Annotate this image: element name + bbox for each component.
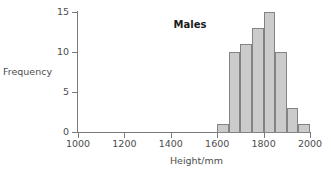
histogram-bar xyxy=(240,44,252,133)
histogram-bar xyxy=(229,52,241,133)
histogram-bar xyxy=(252,28,264,133)
histogram-bar xyxy=(298,124,310,133)
histogram-bar xyxy=(217,124,229,133)
histogram-bar xyxy=(275,52,287,133)
histogram-bar xyxy=(287,108,299,133)
histogram-bar xyxy=(264,12,276,133)
histogram-bars xyxy=(0,0,331,176)
plot-area: Males 051015 100012001400160018002000 Fr… xyxy=(0,0,331,176)
histogram-figure: Males 051015 100012001400160018002000 Fr… xyxy=(0,0,331,176)
